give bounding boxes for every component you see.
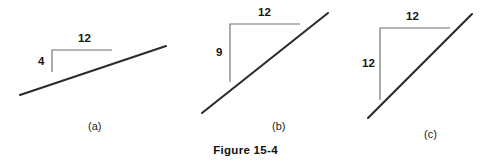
rise-run-marker-c bbox=[380, 28, 450, 100]
figure-container: 12 4 (a) 12 9 (b) 12 12 (c) Figure 15-4 bbox=[0, 0, 491, 166]
run-label-c: 12 bbox=[406, 10, 419, 22]
figure-caption: Figure 15-4 bbox=[0, 144, 491, 156]
slope-line-b bbox=[202, 13, 328, 113]
rise-label-b: 9 bbox=[216, 46, 223, 58]
rise-run-marker-a bbox=[52, 50, 112, 72]
figure-svg bbox=[0, 0, 491, 166]
run-label-b: 12 bbox=[258, 6, 271, 18]
slope-line-a bbox=[20, 46, 166, 95]
panel-label-c: (c) bbox=[424, 128, 437, 140]
run-label-a: 12 bbox=[78, 32, 91, 44]
rise-label-a: 4 bbox=[38, 55, 45, 67]
rise-label-c: 12 bbox=[362, 57, 375, 69]
rise-run-marker-b bbox=[230, 24, 300, 82]
panel-label-b: (b) bbox=[272, 120, 285, 132]
slope-line-c bbox=[368, 14, 472, 118]
panel-label-a: (a) bbox=[88, 120, 101, 132]
